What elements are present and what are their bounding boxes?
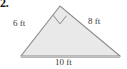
dimension-label-left-leg: 6 ft <box>13 19 25 28</box>
dimension-label-base: 10 ft <box>55 58 72 67</box>
triangle-shape <box>21 6 120 56</box>
figure-container: 2. 6 ft 8 ft 10 ft <box>0 0 127 69</box>
dimension-label-right-leg: 8 ft <box>88 17 100 26</box>
